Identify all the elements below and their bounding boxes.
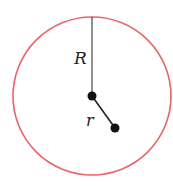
radius-diagram: R r xyxy=(0,0,173,186)
mass-point xyxy=(111,124,120,133)
small-radius-line xyxy=(92,96,115,128)
center-point xyxy=(88,92,97,101)
label-big-R: R xyxy=(73,48,87,68)
label-small-r: r xyxy=(86,111,95,130)
